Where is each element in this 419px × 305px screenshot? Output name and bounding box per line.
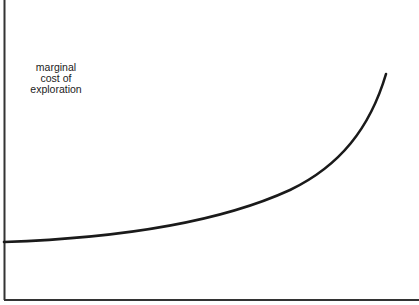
y-axis-label: marginal cost of exploration xyxy=(14,62,98,95)
chart-canvas xyxy=(0,0,419,305)
y-axis-label-line-3: exploration xyxy=(14,84,98,95)
marginal-cost-curve xyxy=(4,74,386,242)
